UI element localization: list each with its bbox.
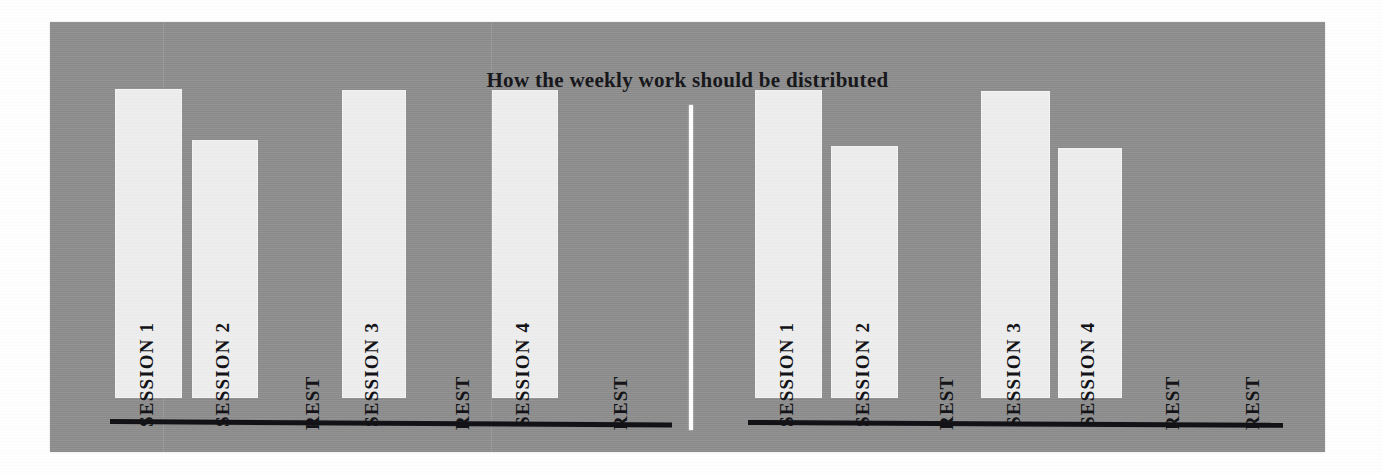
right-chart-plot-area: SESSION 1SESSION 2RESTSESSION 3SESSION 4… <box>690 22 1325 452</box>
figure-page: How the weekly work should be distribute… <box>0 0 1383 474</box>
session-slot-label: SESSION 1 <box>136 322 158 427</box>
right-schedule-chart: SESSION 1SESSION 2RESTSESSION 3SESSION 4… <box>690 22 1325 452</box>
session-slot-label: SESSION 2 <box>212 322 234 427</box>
session-slot-label: SESSION 4 <box>512 322 534 427</box>
session-slot-label: SESSION 1 <box>776 322 798 427</box>
left-schedule-chart: SESSION 1SESSION 2RESTSESSION 3RESTSESSI… <box>50 22 690 452</box>
session-slot-label: SESSION 2 <box>852 322 874 427</box>
session-slot-label: SESSION 4 <box>1077 322 1099 427</box>
left-chart-plot-area: SESSION 1SESSION 2RESTSESSION 3RESTSESSI… <box>50 22 690 452</box>
session-slot-label: SESSION 3 <box>361 322 383 427</box>
session-slot-label: SESSION 3 <box>1003 322 1025 427</box>
figure-panel: How the weekly work should be distribute… <box>50 22 1325 452</box>
